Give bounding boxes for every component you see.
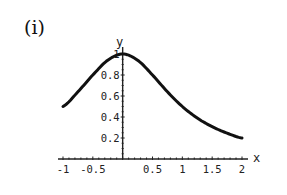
x-tick-label: 0.5 [143, 163, 162, 175]
y-tick-label: 0.8 [101, 69, 120, 81]
x-tick-label: -0.5 [80, 163, 105, 175]
y-axis [121, 47, 125, 159]
line-chart: -1-0.50.511.52 0.20.40.60.81 x y [0, 0, 287, 195]
data-series-line [63, 54, 242, 138]
x-axis-label: x [253, 151, 260, 165]
y-tick-label: 0.6 [101, 90, 120, 102]
y-axis-label: y [116, 35, 123, 49]
x-tick-label: 2 [239, 163, 245, 175]
x-tick-labels: -1-0.50.511.52 [57, 163, 245, 175]
x-tick-label: 1 [179, 163, 185, 175]
x-tick-label: 1.5 [203, 163, 222, 175]
x-axis [58, 157, 248, 161]
y-tick-label: 0.4 [101, 111, 120, 123]
y-tick-label: 0.2 [101, 132, 120, 144]
x-tick-label: -1 [57, 163, 70, 175]
